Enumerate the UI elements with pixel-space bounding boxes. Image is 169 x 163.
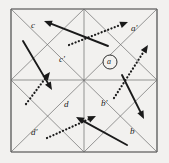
label-d: d	[64, 100, 69, 109]
label-d-prime: d'	[31, 128, 37, 137]
label-a-prime: a'	[131, 24, 137, 33]
arrow-dotted-right-up-head	[141, 45, 148, 54]
arrow-solid-lower-left-shaft	[83, 121, 127, 145]
label-b: b	[130, 127, 135, 136]
arrow-solid-upper-left-head	[44, 21, 53, 27]
figure-container: cc'a'adb'd'b	[0, 0, 169, 163]
arrow-dotted-right-up-shaft	[114, 52, 144, 98]
arrow-solid-upper-left-shaft	[51, 24, 108, 46]
arrow-dotted-left-up-head	[42, 72, 50, 80]
arrow-dotted-upper-right-head	[119, 22, 128, 28]
arrow-solid-right-down-shaft	[122, 75, 140, 112]
label-c: c	[31, 21, 35, 30]
label-b-prime: b'	[101, 99, 107, 108]
label-c-prime: c'	[59, 55, 65, 64]
diagram-canvas	[0, 0, 169, 163]
label-a-circled: a	[107, 58, 111, 66]
arrow-dotted-upper-right-shaft	[69, 25, 121, 45]
arrow-dotted-left-up-shaft	[26, 78, 45, 104]
